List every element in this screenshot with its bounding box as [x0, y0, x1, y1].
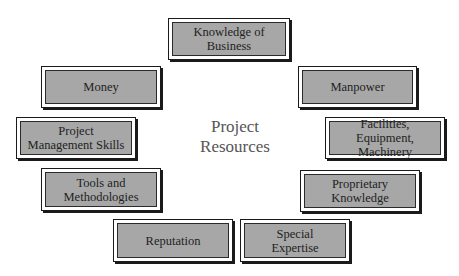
resource-label: Money: [83, 80, 118, 94]
resource-label: Manpower: [330, 80, 384, 94]
resource-box-manpower: Manpower: [298, 66, 417, 108]
resource-label: Facilities, Equipment, Machinery: [332, 117, 438, 159]
resource-box-project-management-skills: Project Management Skills: [16, 117, 136, 159]
resource-label: Tools and Methodologies: [64, 176, 139, 204]
resource-box-special-expertise: Special Expertise: [240, 219, 350, 262]
resource-label: Project Management Skills: [28, 124, 125, 152]
resource-box-tools-and-methodologies: Tools and Methodologies: [41, 168, 161, 211]
resource-box-knowledge-of-business: Knowledge of Business: [168, 18, 290, 60]
resource-label: Special Expertise: [271, 227, 318, 255]
center-title: Project Resources: [170, 117, 300, 157]
resource-box-proprietary-knowledge: Proprietary Knowledge: [300, 170, 420, 212]
resource-label: Proprietary Knowledge: [331, 177, 389, 205]
resource-label: Knowledge of Business: [193, 25, 264, 53]
resource-box-money: Money: [41, 66, 161, 108]
resource-box-facilities-equipment-machinery: Facilities, Equipment, Machinery: [325, 117, 445, 159]
resource-label: Reputation: [146, 234, 201, 248]
resource-box-reputation: Reputation: [113, 219, 233, 262]
